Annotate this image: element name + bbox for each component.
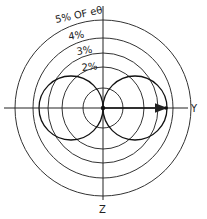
- ring-label-5-percent: 5% OF eθ: [54, 4, 103, 25]
- radiation-pattern-diagram: 5% OF eθ 4% 3% 2% Y Z: [0, 0, 207, 219]
- arrow-tip-dot: [164, 106, 168, 110]
- ring-label-2-percent: 2%: [81, 60, 98, 73]
- z-axis-label: Z: [99, 204, 106, 215]
- ring-label-4-percent: 4%: [67, 28, 85, 42]
- y-axis-label: Y: [190, 103, 198, 114]
- ring-label-3-percent: 3%: [76, 44, 93, 57]
- axes: [4, 6, 188, 200]
- origin-dot: [101, 106, 105, 110]
